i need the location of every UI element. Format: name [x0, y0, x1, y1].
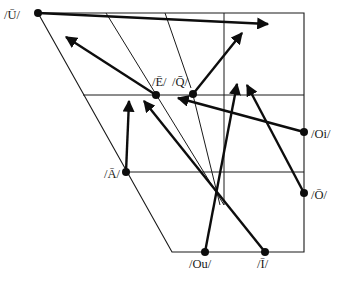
shift-arrow-u — [38, 13, 268, 24]
vowel-label-o: /Ō/ — [311, 188, 328, 202]
vowel-node-i — [261, 248, 269, 256]
vowel-label-a: /Ā/ — [104, 167, 121, 181]
shift-arrow-oi — [178, 98, 304, 132]
diagonal-gridline — [106, 13, 224, 205]
vowel-label-oi: /Oi/ — [311, 127, 331, 141]
vowel-label-ou: /Ou/ — [189, 257, 212, 271]
vowel-node-o — [300, 189, 308, 197]
vowel-node-u — [34, 9, 42, 17]
shift-arrow-i — [144, 101, 265, 252]
vowel-label-u: /Ū/ — [4, 8, 21, 22]
shift-arrow-q — [193, 33, 242, 94]
vowel-nodes — [34, 9, 308, 256]
vowel-shift-diagram: /Ū//Ē//Q̄//Ā//Oi//Ō//Ou//Ī/ — [0, 0, 342, 282]
vowel-node-ou — [201, 248, 209, 256]
vowel-node-oi — [300, 128, 308, 136]
chart-frame — [38, 13, 304, 252]
vowel-label-e: /Ē/ — [152, 75, 167, 89]
vowel-labels: /Ū//Ē//Q̄//Ā//Oi//Ō//Ou//Ī/ — [4, 8, 331, 271]
vowel-node-a — [122, 168, 130, 176]
vowel-node-e — [152, 91, 160, 99]
vowel-label-q: /Q̄/ — [172, 75, 189, 89]
vowel-node-q — [189, 90, 197, 98]
vowel-label-i: /Ī/ — [257, 257, 269, 271]
shift-arrow-a — [126, 101, 129, 172]
shift-arrow-o — [247, 85, 304, 193]
shift-arrows — [38, 13, 304, 252]
frame-outline — [38, 13, 304, 252]
